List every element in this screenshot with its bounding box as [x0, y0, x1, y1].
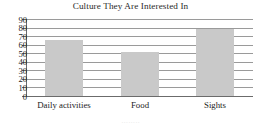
- bar-sights: [196, 29, 234, 96]
- x-axis-label-daily-activities: Daily activities: [24, 100, 104, 110]
- bar-daily-activities: [45, 40, 83, 96]
- gridline-0: [27, 96, 253, 97]
- y-axis-label-60: 60: [3, 41, 27, 50]
- y-axis-label-70: 70: [3, 33, 27, 42]
- footer-caption: ········: [0, 120, 261, 124]
- y-axis-label-50: 50: [3, 50, 27, 59]
- y-axis-label-40: 40: [3, 58, 27, 67]
- y-axis-label-20: 20: [3, 75, 27, 84]
- bar-chart-figure: Culture They Are Interested In 0 10 20 3…: [0, 0, 261, 128]
- chart-title: Culture They Are Interested In: [0, 1, 261, 12]
- x-axis-label-sights: Sights: [185, 100, 245, 110]
- y-axis-label-90: 90: [3, 16, 27, 25]
- y-axis-label-80: 80: [3, 24, 27, 33]
- x-axis-label-food: Food: [110, 100, 170, 110]
- gridline-90: [27, 19, 253, 20]
- y-axis-label-10: 10: [3, 84, 27, 93]
- y-axis-label-30: 30: [3, 67, 27, 76]
- bar-food: [121, 52, 159, 96]
